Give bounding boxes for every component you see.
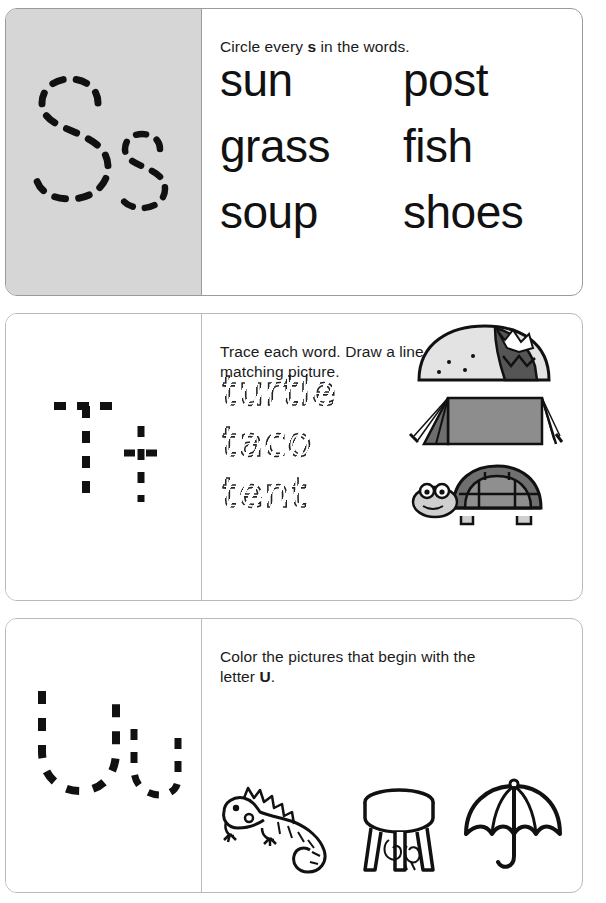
word-list-s: sun post grass fish soup shoes bbox=[220, 57, 570, 255]
stool-illustration[interactable] bbox=[349, 778, 449, 878]
trace-word[interactable]: tent bbox=[222, 468, 392, 519]
word-row: grass fish bbox=[220, 123, 570, 189]
activity-panel-t: Trace each word. Draw a line to the matc… bbox=[5, 313, 583, 601]
dotted-letter-Ss bbox=[6, 9, 202, 295]
worksheet-page: Circle every s in the words. sun post gr… bbox=[0, 0, 606, 903]
activity-content-u: Color the pictures that begin with the l… bbox=[202, 619, 582, 892]
instruction-line-1: Color the pictures that begin with the bbox=[220, 648, 475, 665]
activity-panel-u: Color the pictures that begin with the l… bbox=[5, 618, 583, 893]
instruction-target-letter-u: U bbox=[259, 668, 270, 685]
trace-word[interactable]: turtle bbox=[222, 366, 392, 417]
word-item[interactable]: fish bbox=[403, 123, 570, 169]
instruction-target-letter-s: s bbox=[307, 38, 316, 55]
picture-column-t bbox=[400, 322, 568, 532]
instruction-text-u: Color the pictures that begin with the l… bbox=[220, 647, 568, 689]
trace-word[interactable]: taco bbox=[222, 417, 392, 468]
trace-word-list: turtle taco tent bbox=[222, 366, 392, 520]
letter-trace-cell-s bbox=[6, 9, 202, 295]
taco-illustration[interactable] bbox=[409, 322, 559, 388]
instruction-line-2-suffix: . bbox=[271, 668, 275, 685]
activity-content-t: Trace each word. Draw a line to the matc… bbox=[202, 314, 582, 600]
activity-content-s: Circle every s in the words. sun post gr… bbox=[202, 9, 582, 295]
word-row: sun post bbox=[220, 57, 570, 123]
instruction-line-2-prefix: letter bbox=[220, 668, 259, 685]
word-item[interactable]: post bbox=[403, 57, 570, 103]
dotted-letter-Uu bbox=[6, 619, 202, 892]
tent-illustration[interactable] bbox=[404, 390, 564, 456]
word-item[interactable]: grass bbox=[220, 123, 403, 169]
word-item[interactable]: soup bbox=[220, 189, 403, 235]
word-row: soup shoes bbox=[220, 189, 570, 255]
letter-trace-cell-t bbox=[6, 314, 202, 600]
word-item[interactable]: shoes bbox=[403, 189, 570, 235]
activity-panel-s: Circle every s in the words. sun post gr… bbox=[5, 8, 583, 296]
dotted-letter-Tt bbox=[6, 314, 202, 600]
umbrella-illustration[interactable] bbox=[458, 778, 568, 878]
turtle-illustration[interactable] bbox=[409, 458, 559, 530]
picture-row-u bbox=[212, 766, 572, 878]
letter-trace-cell-u bbox=[6, 619, 202, 892]
instruction-suffix-s: in the words. bbox=[316, 38, 410, 55]
instruction-prefix-s: Circle every bbox=[220, 38, 307, 55]
iguana-illustration[interactable] bbox=[216, 778, 341, 878]
word-item[interactable]: sun bbox=[220, 57, 403, 103]
